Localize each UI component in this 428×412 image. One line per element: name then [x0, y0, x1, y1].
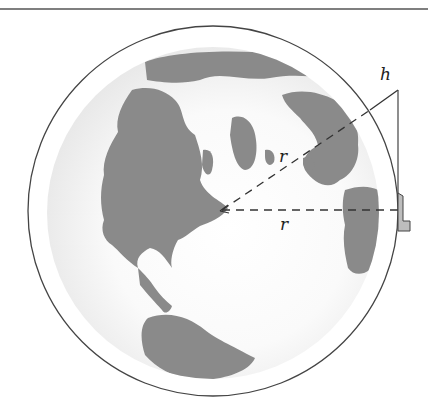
radius-label-slant: r [279, 146, 288, 166]
radius-label-horizontal: r [280, 214, 289, 234]
height-label: h [380, 64, 391, 84]
tower [398, 90, 410, 231]
globe [47, 47, 386, 380]
earth-radius-diagram: h r r [0, 0, 428, 412]
sight-line [370, 90, 398, 110]
